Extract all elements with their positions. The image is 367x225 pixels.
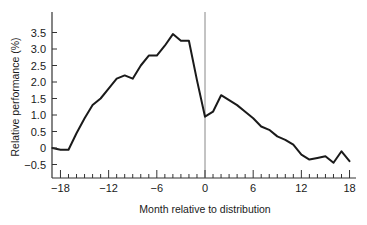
x-axis-title: Month relative to distribution — [139, 203, 270, 215]
performance-series — [52, 34, 349, 163]
y-tick-label: 3.0 — [31, 43, 46, 55]
x-tick-label: 18 — [343, 182, 355, 194]
y-tick-label: 2.0 — [31, 76, 46, 88]
y-tick-label: 0 — [40, 142, 46, 154]
y-tick-label: −0.5 — [24, 159, 46, 171]
x-tick-label: 0 — [202, 182, 208, 194]
y-tick-label: 3.5 — [31, 27, 46, 39]
x-tick-label: 6 — [250, 182, 256, 194]
performance-line — [52, 34, 349, 163]
x-axis-ticks: −18−12−6061218 — [51, 170, 356, 194]
x-tick-label: −18 — [51, 182, 70, 194]
x-tick-label: 12 — [295, 182, 307, 194]
x-tick-label: −6 — [151, 182, 164, 194]
y-tick-label: 1.0 — [31, 109, 46, 121]
y-tick-label: 2.5 — [31, 60, 46, 72]
x-tick-label: −12 — [99, 182, 118, 194]
y-tick-label: 1.5 — [31, 93, 46, 105]
line-chart: −18−12−6061218 −0.500.51.01.52.02.53.03.… — [0, 0, 367, 225]
y-axis-title: Relative performance (%) — [9, 37, 21, 156]
axes — [52, 12, 356, 178]
y-tick-label: 0.5 — [31, 126, 46, 138]
